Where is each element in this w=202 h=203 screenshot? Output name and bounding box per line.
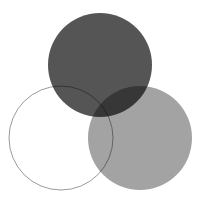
venn-diagram-canvas: Three-circle overlapping Venn diagram bbox=[0, 0, 202, 203]
venn-diagram-figure: Three-circle overlapping Venn diagram bbox=[0, 0, 202, 203]
venn-circle-bottom-right[interactable] bbox=[88, 86, 192, 190]
